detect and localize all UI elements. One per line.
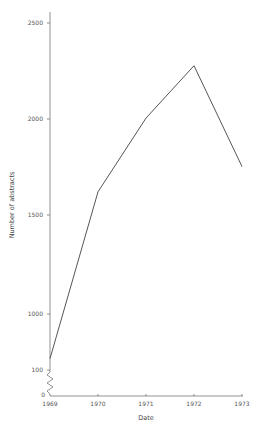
svg-text:1973: 1973: [234, 400, 249, 407]
svg-text:1500: 1500: [28, 211, 43, 218]
svg-text:1970: 1970: [90, 400, 105, 407]
y-axis-title: Number of abstracts: [8, 171, 16, 238]
line-chart: 2500 2000 1500 1000 100 0 1969 1970 1971…: [0, 0, 265, 433]
svg-text:1969: 1969: [42, 400, 57, 407]
svg-text:2500: 2500: [28, 19, 43, 26]
svg-text:1971: 1971: [138, 400, 153, 407]
x-tick-labels: 1969 1970 1971 1972 1973: [42, 400, 249, 407]
y-ticks: [47, 23, 50, 370]
y-tick-labels: 2500 2000 1500 1000 100 0: [28, 19, 45, 398]
svg-text:0: 0: [41, 391, 45, 398]
svg-text:2000: 2000: [28, 115, 43, 122]
svg-text:1972: 1972: [186, 400, 201, 407]
x-axis-title: Date: [138, 414, 154, 422]
data-line-series: [50, 66, 242, 359]
y-axis-break-icon: [47, 372, 53, 396]
svg-text:100: 100: [32, 366, 44, 373]
svg-text:1000: 1000: [28, 310, 43, 317]
